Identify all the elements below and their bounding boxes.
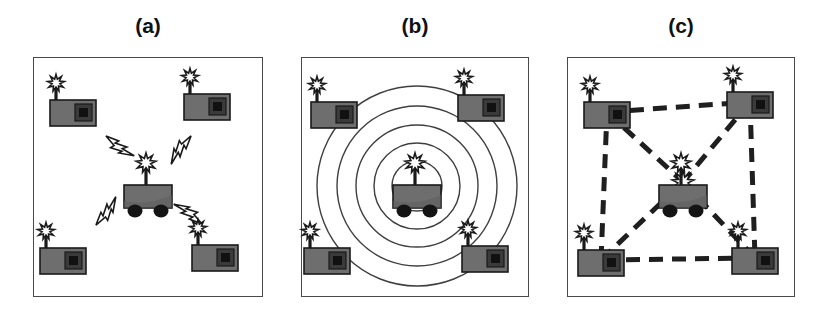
panel-c: (c) [0, 0, 829, 313]
sensor-node-screen-inner [607, 258, 616, 267]
sensor-node-icon [582, 77, 630, 129]
link-tr-br [750, 102, 755, 258]
three-panel-figure: (a) (b) (c) [0, 0, 829, 313]
sensor-node-screen-inner [613, 110, 622, 119]
link-bl-tl [601, 112, 607, 260]
sensor-node-screen-inner [761, 256, 770, 265]
panel-c-canvas [0, 0, 829, 313]
sensor-node-screen-inner [756, 100, 765, 109]
robot-wheel-right [689, 205, 704, 218]
sensor-node-icon [725, 67, 773, 119]
robot-wheel-left [663, 205, 678, 218]
